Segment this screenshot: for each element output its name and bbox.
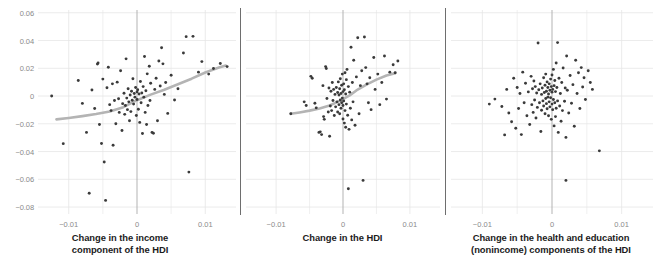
data-point xyxy=(219,62,222,65)
x-axis-tick-label: 0 xyxy=(135,220,139,229)
data-point xyxy=(392,63,395,66)
data-point xyxy=(128,119,131,122)
y-axis-tick-label: −0.04 xyxy=(0,147,34,156)
y-axis-tick-label: −0.06 xyxy=(0,175,34,184)
data-point xyxy=(142,96,145,99)
data-point xyxy=(323,118,326,121)
data-point xyxy=(157,60,160,63)
data-point xyxy=(554,90,557,93)
data-point xyxy=(576,92,579,95)
data-point xyxy=(170,74,173,77)
data-point xyxy=(342,117,345,120)
data-point xyxy=(341,97,344,100)
data-point xyxy=(564,136,567,139)
data-point xyxy=(135,114,138,117)
data-point xyxy=(329,105,332,108)
data-point xyxy=(551,103,554,106)
data-point xyxy=(123,92,126,95)
data-point xyxy=(226,65,229,68)
x-axis-label-line: Change in the HDI xyxy=(240,232,445,244)
data-point xyxy=(532,80,535,83)
data-point xyxy=(164,81,167,84)
data-point xyxy=(331,81,334,84)
data-point xyxy=(116,81,119,84)
data-point xyxy=(362,179,365,182)
data-point xyxy=(573,125,576,128)
data-point xyxy=(581,86,584,89)
data-point xyxy=(322,115,325,118)
data-point xyxy=(319,130,322,133)
data-point xyxy=(328,135,331,138)
data-point xyxy=(332,88,335,91)
x-axis-tick-label: 0.01 xyxy=(198,220,213,229)
data-point xyxy=(187,171,190,174)
data-point xyxy=(534,85,537,88)
panel-separator-1 xyxy=(240,8,241,215)
data-point xyxy=(537,88,540,91)
data-point xyxy=(385,98,388,101)
data-point xyxy=(140,101,143,104)
data-point xyxy=(528,123,531,126)
data-point xyxy=(125,97,128,100)
data-point xyxy=(125,57,128,60)
data-point xyxy=(348,128,351,131)
data-point xyxy=(149,82,152,85)
data-point xyxy=(118,111,121,114)
data-point xyxy=(554,115,557,118)
data-point xyxy=(532,111,535,114)
data-point xyxy=(117,97,120,100)
x-axis-label-income: Change in the incomecomponent of the HDI xyxy=(0,232,240,255)
data-point xyxy=(530,103,533,106)
data-point xyxy=(370,108,373,111)
data-point xyxy=(555,62,558,65)
data-point xyxy=(88,192,91,195)
data-point xyxy=(578,107,581,110)
data-point xyxy=(510,120,513,123)
data-point xyxy=(562,67,565,70)
data-point xyxy=(111,82,114,85)
data-point xyxy=(100,142,103,145)
data-point xyxy=(545,102,548,105)
data-point xyxy=(101,78,104,81)
data-point xyxy=(536,106,539,109)
data-point xyxy=(507,112,510,115)
data-point xyxy=(561,109,564,112)
data-point xyxy=(144,111,147,114)
data-point xyxy=(351,81,354,84)
data-point xyxy=(512,77,515,80)
data-point xyxy=(197,71,200,74)
data-point xyxy=(539,130,542,133)
data-point xyxy=(346,68,349,71)
data-point xyxy=(557,131,560,134)
data-point xyxy=(547,93,550,96)
data-point xyxy=(555,107,558,110)
data-point xyxy=(108,103,111,106)
x-axis-label-line: Change in the health and education xyxy=(445,232,657,244)
data-point xyxy=(200,60,203,63)
data-point xyxy=(563,100,566,103)
data-point xyxy=(121,129,124,132)
data-point xyxy=(556,41,559,44)
data-point xyxy=(548,82,551,85)
data-point xyxy=(332,99,335,102)
x-axis-label-nonincome: Change in the health and education(nonin… xyxy=(445,232,657,255)
data-point xyxy=(535,117,538,120)
data-point xyxy=(545,90,548,93)
data-point xyxy=(541,99,544,102)
x-axis-tick-label: −0.01 xyxy=(473,220,492,229)
data-point xyxy=(145,123,148,126)
data-point xyxy=(131,99,134,102)
data-point xyxy=(132,103,135,106)
data-point xyxy=(577,71,580,74)
data-point xyxy=(358,112,361,115)
data-point xyxy=(149,99,152,102)
y-axis-tick-label: 0.04 xyxy=(0,36,34,45)
data-point xyxy=(565,55,568,58)
data-point xyxy=(372,56,375,59)
data-point xyxy=(551,91,554,94)
data-point xyxy=(570,102,573,105)
data-point xyxy=(212,67,215,70)
data-point xyxy=(552,98,555,101)
data-point xyxy=(121,102,124,105)
data-point xyxy=(598,149,601,152)
